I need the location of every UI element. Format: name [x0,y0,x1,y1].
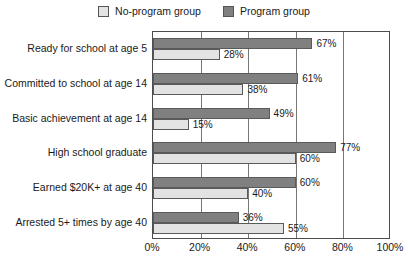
bar-value-no-program-group: 38% [243,84,267,95]
bar-no-program-group [153,119,189,130]
legend-label-no-program-group: No-program group [115,6,201,17]
bar-value-program-group: 67% [312,38,336,49]
legend-swatch-program-group [223,6,234,17]
bar-program-group [153,177,296,188]
bar-program-group [153,142,336,153]
bar-value-no-program-group: 55% [284,223,308,234]
bar-no-program-group [153,188,248,199]
bar-program-group [153,108,270,119]
x-tick-label: 20% [189,241,210,253]
bar-no-program-group [153,84,243,95]
category-label: Committed to school at age 14 [0,77,147,89]
bar-value-no-program-group: 40% [248,188,272,199]
x-tick-label: 60% [284,241,305,253]
bar-no-program-group [153,223,284,234]
gridline [296,32,297,238]
x-tick-label: 40% [237,241,258,253]
bar-value-no-program-group: 28% [220,49,244,60]
category-label: High school graduate [0,146,147,158]
bar-program-group [153,73,298,84]
category-label: Ready for school at age 5 [0,42,147,54]
category-label: Basic achievement at age 14 [0,112,147,124]
gridline [248,32,249,238]
chart-legend: No-program group Program group [0,6,408,17]
legend-swatch-no-program-group [98,6,109,17]
x-tick-label: 100% [377,241,404,253]
bar-program-group [153,38,312,49]
category-label: Arrested 5+ times by age 40 [0,216,147,228]
legend-item-no-program-group: No-program group [98,6,201,17]
category-label: Earned $20K+ at age 40 [0,181,147,193]
bar-no-program-group [153,49,220,60]
legend-item-program-group: Program group [223,6,310,17]
bar-no-program-group [153,153,296,164]
bar-value-no-program-group: 60% [296,153,320,164]
plot-area: 67%28%61%38%49%15%77%60%60%40%36%55% [152,31,390,239]
legend-label-program-group: Program group [240,6,310,17]
bar-value-program-group: 77% [336,142,360,153]
bar-value-program-group: 49% [270,108,294,119]
gridline [343,32,344,238]
gridline [201,32,202,238]
x-axis-tick-labels: 0%20%40%60%80%100% [152,241,390,261]
bar-value-program-group: 60% [296,177,320,188]
x-tick-label: 0% [144,241,159,253]
bar-value-program-group: 61% [298,73,322,84]
bar-value-no-program-group: 15% [189,119,213,130]
bar-value-program-group: 36% [239,212,263,223]
x-tick-label: 80% [332,241,353,253]
bar-chart: No-program group Program group Ready for… [0,0,408,269]
bar-program-group [153,212,239,223]
